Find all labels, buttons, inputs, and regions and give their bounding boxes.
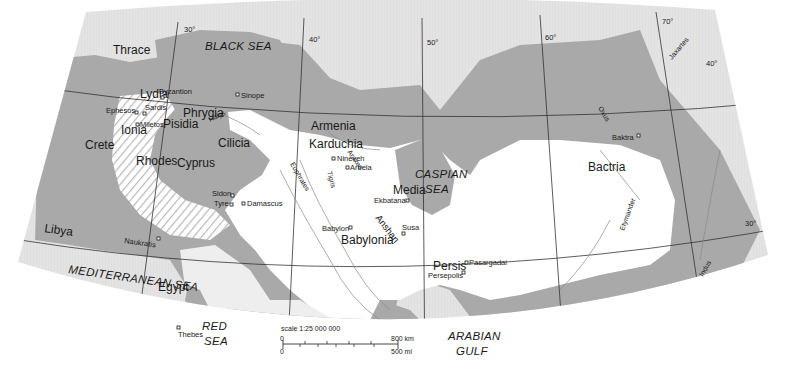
longitude-label-30: 30° [184, 25, 195, 34]
svg-text:Pasargadai: Pasargadai [469, 258, 507, 267]
svg-text:Sinope: Sinope [241, 91, 264, 100]
svg-text:Baktra: Baktra [612, 133, 635, 142]
city-pasargadai: Pasargadai [465, 258, 507, 267]
sea-black: BLACK SEA [205, 40, 272, 52]
svg-text:Susa: Susa [402, 223, 420, 232]
svg-text:Ephesos: Ephesos [106, 106, 135, 115]
region-rhodes: Rhodes [136, 154, 177, 168]
longitude-label-60: 60° [545, 33, 556, 42]
svg-text:Miletos: Miletos [140, 120, 164, 129]
city-thebes: Thebes [177, 326, 203, 339]
region-egypt: Egypt [158, 280, 189, 294]
scale-bar: scale 1:25 000 000 0 0 800 km 500 mi [280, 325, 414, 355]
region-armenia: Armenia [311, 119, 356, 133]
scale-mi: 500 mi [391, 348, 412, 355]
sea-caspian-2: SEA [425, 183, 449, 195]
region-thrace: Thrace [113, 43, 151, 57]
latitude-label-40: 40° [706, 59, 717, 68]
city-miletos: Miletos [136, 120, 164, 129]
sea-arabian-1: ARABIAN [447, 330, 501, 342]
city-ekbatana: Ekbatana [374, 196, 409, 205]
sea-red-2: SEA [204, 335, 228, 347]
svg-text:Thebes: Thebes [178, 330, 203, 339]
longitude-label-50: 50° [427, 38, 438, 47]
city-damascus: Damascus [242, 199, 283, 208]
svg-text:Persepolis: Persepolis [428, 271, 463, 280]
region-cyprus: Cyprus [177, 156, 215, 170]
city-babylon: Babylon [322, 224, 352, 233]
scale-zero-mi: 0 [280, 348, 284, 355]
region-cilicia: Cilicia [218, 136, 250, 150]
region-media: Media [393, 183, 426, 197]
scale-label: scale 1:25 000 000 [281, 325, 340, 332]
region-pisidia: Pisidia [163, 117, 199, 131]
svg-text:Ekbatana: Ekbatana [374, 196, 407, 205]
city-sinope: Sinope [236, 91, 264, 100]
svg-text:Babylon: Babylon [322, 224, 349, 233]
region-crete: Crete [85, 138, 115, 152]
city-sidon: Sidon [212, 189, 234, 198]
persian-empire-map: 30° 40° 50° 60° 70° 40° 30° BLACK SEA CA… [0, 0, 798, 385]
sea-arabian-2: GULF [456, 345, 489, 357]
sea-caspian-1: CASPIAN [415, 168, 468, 180]
city-persepolis: Persepolis [428, 271, 465, 280]
city-ephesos: Ephesos [106, 106, 138, 115]
svg-text:Sidon: Sidon [212, 189, 231, 198]
svg-text:Damascus: Damascus [247, 199, 283, 208]
svg-text:Byzantion: Byzantion [159, 87, 192, 96]
longitude-label-70: 70° [662, 17, 673, 26]
svg-text:Tyre: Tyre [214, 199, 229, 208]
svg-text:Sardis: Sardis [145, 103, 167, 112]
sea-red-1: RED [202, 320, 227, 332]
longitude-label-40: 40° [309, 35, 320, 44]
region-karduchia: Karduchia [309, 137, 363, 151]
latitude-label-30: 30° [745, 219, 756, 228]
region-bactria: Bactria [588, 160, 626, 174]
scale-km: 800 km [391, 335, 414, 342]
